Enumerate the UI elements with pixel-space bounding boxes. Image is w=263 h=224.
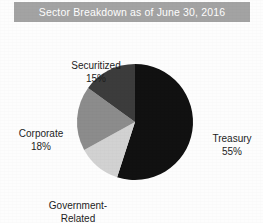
- pie-chart-area: Securitized 15% Corporate 18% Government…: [0, 24, 263, 223]
- pie-label-government-related: Government- Related 12%: [36, 200, 120, 223]
- pie-label-securitized-name: Securitized: [58, 60, 134, 73]
- pie-label-government-related-name2: Related: [36, 213, 120, 224]
- pie-label-treasury-name: Treasury: [203, 133, 261, 146]
- chart-page: Sector Breakdown as of June 30, 2016 Sec…: [0, 0, 263, 223]
- pie-chart-svg: [0, 24, 263, 223]
- pie-label-corporate-name: Corporate: [8, 128, 74, 141]
- pie-label-treasury-value: 55%: [203, 146, 261, 159]
- chart-title-bar: Sector Breakdown as of June 30, 2016: [14, 2, 250, 22]
- pie-label-treasury: Treasury 55%: [203, 133, 261, 158]
- chart-title: Sector Breakdown as of June 30, 2016: [39, 7, 225, 18]
- pie-label-securitized: Securitized 15%: [58, 60, 134, 85]
- pie-label-corporate: Corporate 18%: [8, 128, 74, 153]
- pie-label-government-related-name: Government-: [36, 200, 120, 213]
- pie-label-corporate-value: 18%: [8, 141, 74, 154]
- pie-label-securitized-value: 15%: [58, 73, 134, 86]
